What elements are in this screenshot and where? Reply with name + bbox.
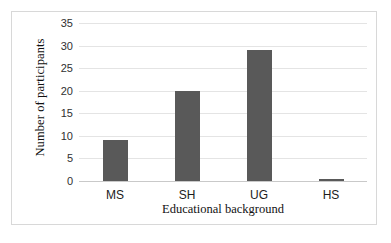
y-tick-label: 30 — [61, 40, 73, 52]
y-tick-label: 25 — [61, 62, 73, 74]
plot-area: 05101520253035 MSSHUGHS — [79, 23, 367, 181]
bar-sh[interactable] — [175, 91, 200, 181]
x-tick-label-hs: HS — [303, 188, 359, 202]
y-tick-label: 10 — [61, 130, 73, 142]
y-tick-label: 15 — [61, 107, 73, 119]
y-tick-label: 5 — [67, 152, 73, 164]
x-tick-label-ug: UG — [231, 188, 287, 202]
bar-hs[interactable] — [319, 179, 344, 181]
bars-layer: MSSHUGHS — [79, 23, 367, 181]
x-axis-line — [79, 181, 367, 182]
y-tick-label: 20 — [61, 85, 73, 97]
x-tick-label-ms: MS — [87, 188, 143, 202]
x-axis-title: Educational background — [79, 202, 367, 217]
x-tick-label-sh: SH — [159, 188, 215, 202]
chart-figure-frame: Number of participants 05101520253035 MS… — [11, 11, 377, 225]
y-tick-label: 0 — [67, 175, 73, 187]
y-axis-title: Number of participants — [33, 23, 48, 173]
bar-ms[interactable] — [103, 140, 128, 181]
y-tick-label: 35 — [61, 17, 73, 29]
bar-ug[interactable] — [247, 50, 272, 181]
